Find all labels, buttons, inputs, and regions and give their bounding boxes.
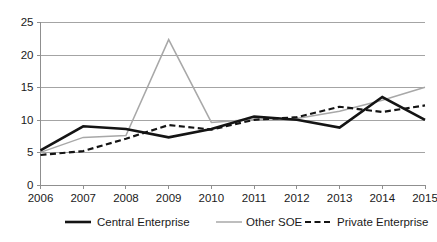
series-line-central-enterprise <box>41 97 426 150</box>
legend-label-central-enterprise: Central Enterprise <box>97 216 190 228</box>
x-tick-label-2011: 2011 <box>242 192 267 204</box>
y-tick-label-20: 20 <box>21 49 34 61</box>
series-line-private-enterprise <box>41 105 426 155</box>
y-tick-label-25: 25 <box>21 16 34 28</box>
x-tick-label-2014: 2014 <box>369 192 395 204</box>
x-tick-label-2006: 2006 <box>28 192 54 204</box>
line-chart: 0510152025 20062007200820092010201120122… <box>0 0 437 242</box>
data-series-group <box>41 40 426 155</box>
legend-label-private-enterprise: Private Enterprise <box>337 216 428 228</box>
x-tick-label-2010: 2010 <box>199 192 225 204</box>
x-tick-label-2013: 2013 <box>327 192 353 204</box>
y-tick-label-0: 0 <box>27 179 33 191</box>
y-tick-label-15: 15 <box>21 81 34 93</box>
chart-canvas: 0510152025 20062007200820092010201120122… <box>0 0 437 242</box>
gridlines-group <box>41 23 426 153</box>
x-tick-label-2008: 2008 <box>113 192 139 204</box>
x-tick-label-2009: 2009 <box>156 192 182 204</box>
y-tick-label-5: 5 <box>27 146 33 158</box>
x-tick-label-2012: 2012 <box>284 192 310 204</box>
x-tick-label-2015: 2015 <box>412 192 437 204</box>
y-tick-label-10: 10 <box>21 114 34 126</box>
x-tick-label-2007: 2007 <box>70 192 96 204</box>
y-tick-labels-group: 0510152025 <box>21 16 34 191</box>
chart-legend: Central EnterpriseOther SOEPrivate Enter… <box>65 216 428 228</box>
series-line-other-soe <box>41 40 426 153</box>
legend-label-other-soe: Other SOE <box>246 216 303 228</box>
y-tick-marks-group <box>37 23 41 186</box>
x-tick-labels-group: 2006200720082009201020112012201320142015 <box>28 192 437 204</box>
